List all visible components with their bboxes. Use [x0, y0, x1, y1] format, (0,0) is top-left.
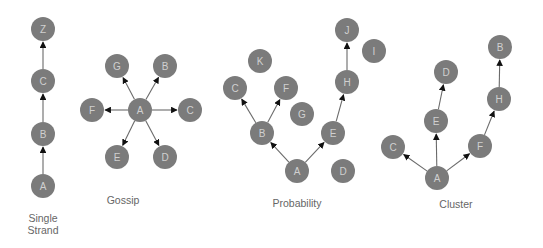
node-label: G [113, 61, 121, 72]
node-label: F [477, 141, 483, 152]
node-a: A [285, 159, 309, 183]
panel-single-strand: ZCBASingleStrand [28, 17, 59, 236]
node-label: E [330, 128, 337, 139]
node-c: C [178, 98, 202, 122]
node-label: C [186, 105, 193, 116]
caption-single-strand: SingleStrand [28, 212, 59, 236]
caption-gossip: Gossip [107, 194, 140, 206]
edge-a-to-e [123, 121, 135, 146]
node-z: Z [31, 17, 55, 41]
node-b: B [250, 121, 274, 145]
node-f: F [468, 134, 492, 158]
edge-a-to-e [305, 142, 324, 162]
edge-a-to-b [271, 143, 289, 163]
node-label: C [389, 142, 396, 153]
node-f: F [274, 76, 298, 100]
node-i: I [362, 39, 386, 63]
node-c: C [31, 69, 55, 93]
node-b: B [488, 35, 512, 59]
node-label: C [231, 83, 238, 94]
caption-probability: Probability [272, 197, 322, 209]
node-label: A [40, 181, 47, 192]
node-b: B [153, 54, 177, 78]
node-label: B [40, 129, 47, 140]
node-label: H [343, 77, 350, 88]
edge-b-to-c [242, 99, 256, 123]
node-label: F [283, 83, 289, 94]
node-c: C [223, 76, 247, 100]
node-label: F [89, 105, 95, 116]
gossip-protocol-diagram: ZCBASingleStrandGBFACEDGossipJIKHCFGBEAD… [0, 0, 543, 248]
node-k: K [248, 49, 272, 73]
node-f: F [80, 98, 104, 122]
caption-line: Strand [28, 224, 59, 236]
node-a: A [128, 98, 152, 122]
edge-h-to-b [499, 60, 500, 87]
node-label: Z [40, 24, 46, 35]
node-label: A [137, 105, 144, 116]
node-a: A [31, 174, 55, 198]
edge-a-to-e [436, 134, 437, 166]
node-h: H [487, 87, 511, 111]
node-b: B [31, 122, 55, 146]
caption-line: Gossip [107, 194, 140, 206]
caption-line: Probability [272, 197, 322, 209]
node-label: D [161, 152, 168, 163]
caption-line: Single [28, 212, 57, 224]
node-label: G [298, 109, 306, 120]
node-label: H [495, 94, 502, 105]
caption-line: Cluster [439, 198, 473, 210]
node-label: B [162, 61, 169, 72]
node-c: C [381, 135, 405, 159]
node-j: J [335, 18, 359, 42]
node-g: G [290, 102, 314, 126]
panel-gossip: GBFACEDGossip [80, 54, 202, 206]
edge-a-to-d [146, 121, 159, 146]
node-label: B [259, 128, 266, 139]
node-label: A [434, 173, 441, 184]
edge-a-to-c [404, 154, 428, 171]
node-e: E [424, 109, 448, 133]
edge-a-to-f [447, 154, 470, 171]
node-d: D [153, 145, 177, 169]
edge-a-to-g [123, 78, 134, 100]
node-d: D [434, 60, 458, 84]
node-h: H [335, 70, 359, 94]
node-label: B [497, 42, 504, 53]
edge-f-to-h [484, 111, 494, 135]
node-label: D [442, 67, 449, 78]
node-d: D [331, 159, 355, 183]
node-g: G [105, 54, 129, 78]
edge-e-to-h [336, 95, 343, 122]
node-label: D [339, 166, 346, 177]
edge-e-to-d [438, 85, 443, 110]
node-label: E [114, 152, 121, 163]
edge-b-to-f [268, 99, 280, 122]
node-a: A [425, 166, 449, 190]
node-label: I [373, 46, 376, 57]
node-label: E [433, 116, 440, 127]
node-label: A [294, 166, 301, 177]
node-e: E [105, 145, 129, 169]
caption-cluster: Cluster [439, 198, 473, 210]
node-label: C [39, 76, 46, 87]
panel-cluster: BDHECFACluster [381, 35, 512, 210]
panel-probability: JIKHCFGBEADProbability [223, 18, 386, 209]
node-e: E [321, 121, 345, 145]
node-label: K [257, 56, 264, 67]
edge-a-to-b [146, 77, 159, 99]
node-label: J [345, 25, 350, 36]
